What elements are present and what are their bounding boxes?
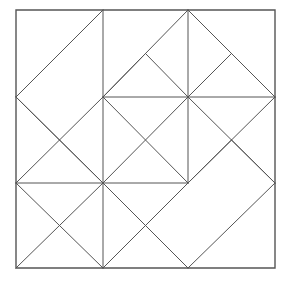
geometric-figure-container — [0, 0, 288, 281]
geometric-pattern-svg — [0, 0, 288, 281]
figure-background — [0, 0, 288, 281]
